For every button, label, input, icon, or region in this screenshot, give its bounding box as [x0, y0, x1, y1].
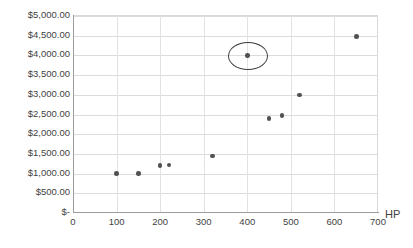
y-axis-line	[73, 15, 74, 213]
x-axis-tick-label: 500	[271, 216, 311, 227]
x-axis-tick-label: 600	[314, 216, 354, 227]
gridline-horizontal	[73, 75, 377, 76]
gridline-vertical	[204, 16, 205, 212]
data-point	[297, 93, 302, 98]
data-point	[158, 163, 163, 168]
x-axis-tick-label: 400	[227, 216, 267, 227]
data-point	[167, 163, 172, 168]
data-point	[114, 171, 119, 176]
data-point	[280, 113, 285, 118]
y-axis-tick-label: $4,500.00	[2, 30, 70, 40]
y-axis-tick-label: $500.00	[2, 187, 70, 197]
gridline-horizontal	[73, 134, 377, 135]
gridline-vertical	[117, 16, 118, 212]
y-axis-tick-label: $4,000.00	[2, 49, 70, 59]
x-axis-tick-label: 200	[140, 216, 180, 227]
data-point	[136, 171, 141, 176]
highlight-ellipse-annotation	[228, 42, 268, 70]
gridline-horizontal	[73, 55, 377, 56]
y-axis-tick-label: $2,500.00	[2, 109, 70, 119]
y-axis-tick-label: $2,000.00	[2, 128, 70, 138]
y-axis-tick-label: $1,000.00	[2, 168, 70, 178]
plot-area	[73, 15, 378, 212]
y-axis-tick-label: $3,500.00	[2, 69, 70, 79]
data-point	[267, 116, 272, 121]
x-axis-tick-label: 100	[97, 216, 137, 227]
x-axis-tick-label: 0	[53, 216, 93, 227]
gridline-horizontal	[73, 95, 377, 96]
scatter-chart: $-$500.00$1,000.00$1,500.00$2,000.00$2,5…	[0, 0, 413, 248]
gridline-horizontal	[73, 36, 377, 37]
x-axis-title: HP	[385, 208, 400, 220]
data-point	[354, 34, 359, 39]
gridline-vertical	[160, 16, 161, 212]
gridline-horizontal	[73, 115, 377, 116]
gridline-vertical	[334, 16, 335, 212]
data-point	[210, 154, 215, 159]
x-axis-line	[73, 212, 379, 213]
gridline-horizontal	[73, 154, 377, 155]
y-axis-tick-label: $1,500.00	[2, 148, 70, 158]
y-axis-tick-label: $5,000.00	[2, 10, 70, 20]
x-axis-tick-label: 300	[184, 216, 224, 227]
gridline-horizontal	[73, 193, 377, 194]
gridline-vertical	[291, 16, 292, 212]
y-axis-tick-labels: $-$500.00$1,000.00$1,500.00$2,000.00$2,5…	[0, 0, 70, 248]
gridline-horizontal	[73, 16, 377, 17]
y-axis-tick-label: $3,000.00	[2, 89, 70, 99]
